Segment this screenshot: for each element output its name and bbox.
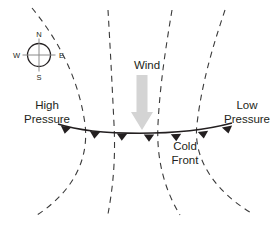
low-pressure-label-line2: Pressure [224,113,270,125]
isobar-curve-3 [158,10,180,215]
wind-arrow-icon [131,75,153,130]
cold-front-label-line1: Cold [173,140,197,152]
cold-front-label-line2: Front [172,154,200,166]
wind-arrow-group [131,75,153,130]
weather-diagram: N S E W High Pressure Low Pressure Wind … [0,0,279,227]
compass-label-west: W [13,51,21,60]
cold-front-barb [144,135,154,142]
compass-label-south: S [36,73,41,82]
cold-front-barb [117,133,128,141]
high-pressure-label-line1: High [35,99,59,111]
compass-label-north: N [36,30,41,39]
cold-front-barb [198,131,209,139]
cold-front-group [58,123,234,142]
isobar-curve-1 [32,8,86,215]
low-pressure-label-line1: Low [236,99,258,111]
isobar-curve-2 [108,10,115,214]
weather-map-canvas: N S E W High Pressure Low Pressure Wind … [0,0,279,227]
cold-front-barb [89,131,100,139]
isobar-curve-4 [196,10,253,214]
cold-front-barb [222,125,234,134]
compass-rose: N S E W [13,30,64,82]
wind-label: Wind [134,59,160,71]
compass-label-east: E [59,51,64,60]
high-pressure-label-line2: Pressure [24,113,70,125]
